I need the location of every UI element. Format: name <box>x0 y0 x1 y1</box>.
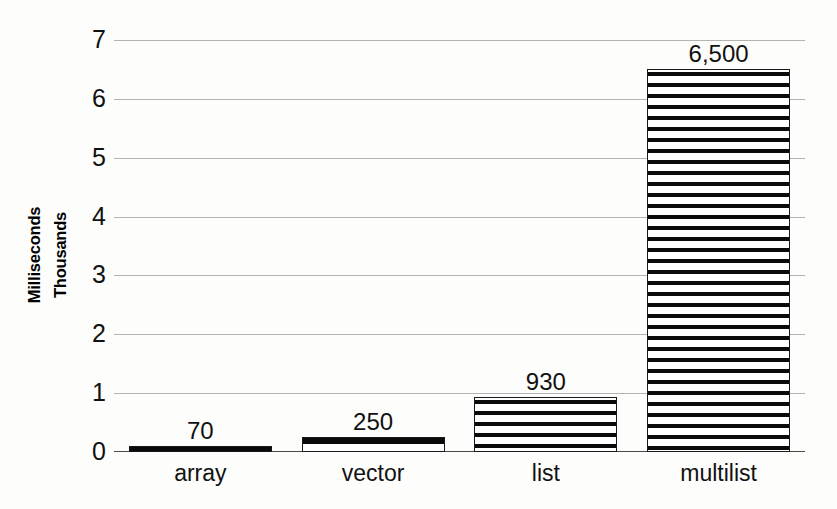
y-axis-title-line-1: Milliseconds <box>20 150 48 360</box>
y-axis-tick-label: 6 <box>70 86 106 111</box>
bar-value-label: 250 <box>353 410 393 434</box>
bar-vector[interactable]: 250 <box>302 437 445 452</box>
y-axis-tick-label: 5 <box>70 145 106 170</box>
x-axis-category-label: array <box>174 462 226 485</box>
y-axis-tick-label: 0 <box>70 439 106 464</box>
bar-chart-figure: Milliseconds Thousands 01234567 70array2… <box>0 0 837 509</box>
x-axis-category-label: list <box>532 462 560 485</box>
y-axis-tick-label: 7 <box>70 27 106 52</box>
y-axis-tick-label: 3 <box>70 262 106 287</box>
x-axis-category-label: vector <box>342 462 405 485</box>
plot-area: 70array250vector930list6,500multilist <box>114 40 805 452</box>
bar-list[interactable]: 930 <box>474 397 617 452</box>
bar-value-label: 930 <box>526 370 566 394</box>
y-axis-tick-labels: 01234567 <box>70 0 106 509</box>
y-axis-tick-label: 4 <box>70 204 106 229</box>
y-axis-tick-label: 1 <box>70 380 106 405</box>
bar-group: 70array <box>114 40 287 452</box>
bar-value-label: 70 <box>187 419 214 443</box>
bar-multilist[interactable]: 6,500 <box>647 69 790 452</box>
x-axis-category-label: multilist <box>680 462 757 485</box>
bar-group: 250vector <box>287 40 460 452</box>
bar-array[interactable]: 70 <box>129 446 272 452</box>
bar-group: 6,500multilist <box>632 40 805 452</box>
y-axis-tick-label: 2 <box>70 321 106 346</box>
bar-value-label: 6,500 <box>689 42 749 66</box>
bar-group: 930list <box>460 40 633 452</box>
